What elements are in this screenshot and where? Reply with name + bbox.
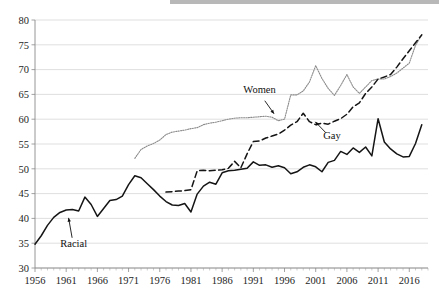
x-axis-minor-ticks <box>35 268 428 272</box>
x-tick-label-1976: 1976 <box>149 275 170 286</box>
line-chart: 3035404550556065707580 19561961196619711… <box>0 0 439 300</box>
x-tick-label-2016: 2016 <box>399 275 420 286</box>
x-tick-label-1966: 1966 <box>87 275 108 286</box>
y-tick-label-35: 35 <box>19 238 30 249</box>
x-tick-label-2006: 2006 <box>336 275 357 286</box>
x-tick-label-1956: 1956 <box>25 275 46 286</box>
y-tick-label-80: 80 <box>19 15 30 26</box>
y-tick-label-75: 75 <box>19 40 30 51</box>
x-tick-label-1981: 1981 <box>180 275 201 286</box>
x-tick-label-1991: 1991 <box>243 275 264 286</box>
x-tick-label-2001: 2001 <box>305 275 326 286</box>
x-tick-label-1986: 1986 <box>212 275 233 286</box>
series-annotations: RacialWomenGay <box>60 84 341 248</box>
x-tick-label-1996: 1996 <box>274 275 295 286</box>
y-tick-label-50: 50 <box>19 164 30 175</box>
y-tick-label-60: 60 <box>19 114 30 125</box>
y-tick-label-65: 65 <box>19 89 30 100</box>
series-label-racial: Racial <box>60 238 87 249</box>
series-line-women <box>135 35 422 159</box>
y-tick-label-55: 55 <box>19 139 30 150</box>
y-axis-tick-labels: 3035404550556065707580 <box>19 15 30 274</box>
series-lines <box>35 35 422 244</box>
x-axis-tick-labels: 1956196119661971197619811986199119962001… <box>25 275 420 286</box>
y-tick-label-40: 40 <box>19 213 30 224</box>
series-label-women: Women <box>243 84 276 95</box>
top-edge-artifact <box>170 0 439 4</box>
y-tick-label-70: 70 <box>19 64 30 75</box>
x-tick-label-2011: 2011 <box>368 275 389 286</box>
y-axis-ticks <box>32 20 36 268</box>
x-tick-label-1971: 1971 <box>118 275 139 286</box>
y-tick-label-45: 45 <box>19 188 30 199</box>
series-label-gay: Gay <box>323 130 341 141</box>
chart-container: 3035404550556065707580 19561961196619711… <box>0 0 439 300</box>
gridlines <box>35 20 428 268</box>
y-tick-label-30: 30 <box>19 263 30 274</box>
series-line-racial <box>35 119 422 244</box>
annotation-arrowhead-women <box>270 110 274 114</box>
x-tick-label-1961: 1961 <box>56 275 77 286</box>
